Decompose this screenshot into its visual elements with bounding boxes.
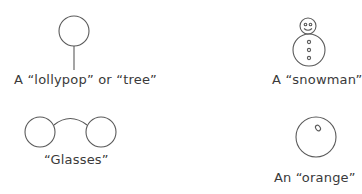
glasses-drawing [25,117,116,147]
snowman-label: A “snowman” [272,72,362,87]
lollypop-drawing [59,16,89,70]
glasses-label: “Glasses” [44,152,109,167]
lollypop-label: A “lollypop” or “tree” [14,72,157,87]
orange-drawing [296,117,336,157]
orange-label: An “orange” [274,170,356,185]
snowman-drawing [293,18,325,66]
